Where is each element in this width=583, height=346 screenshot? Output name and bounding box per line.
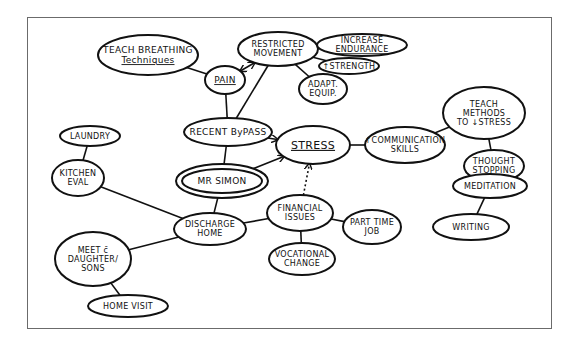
- node-label: SKILLS: [391, 145, 419, 154]
- node-strength: ↑STRENGTH: [319, 58, 379, 74]
- node-label: TEACH: [469, 100, 498, 109]
- node-label: ISSUES: [285, 213, 315, 222]
- node-label: Techniques: [120, 55, 174, 65]
- node-vocational-change: VOCATIONALCHANGE: [269, 243, 335, 275]
- node-communication-skills: ↑COMMUNICATIONSKILLS: [365, 127, 446, 163]
- edge-financial-issues-to-part-time-job: [331, 219, 344, 222]
- node-label: ADAPT.: [308, 80, 338, 89]
- node-label: VOCATIONAL: [275, 250, 330, 259]
- node-writing: WRITING: [433, 214, 509, 240]
- edge-kitchen-eval-to-laundry: [83, 146, 87, 160]
- node-teach-methods: TEACHMETHODSTO ↓STRESS: [443, 87, 525, 139]
- edge-restricted-movement-to-adapt-equip: [295, 64, 309, 76]
- node-label: ↑COMMUNICATION: [365, 136, 446, 145]
- edge-mr-simon-to-discharge-home: [214, 198, 218, 213]
- edge-pain-to-recent-bypass: [226, 94, 227, 118]
- node-kitchen-eval: KITCHENEVAL: [52, 160, 104, 196]
- edge-discharge-home-to-meet-daughter-sons: [129, 237, 179, 250]
- edge-financial-issues-to-stress: [303, 164, 309, 195]
- node-label: PAIN: [214, 75, 236, 85]
- edge-restricted-movement-to-strength: [313, 57, 327, 60]
- edge-communication-skills-to-teach-methods: [435, 127, 450, 133]
- node-label: PART TIME: [350, 218, 394, 227]
- node-meditation: MEDITATION: [453, 174, 527, 198]
- edge-financial-issues-to-vocational-change: [301, 231, 302, 243]
- edge-teach-methods-to-thought-stopping: [489, 139, 491, 150]
- node-label: MEET c̄: [78, 246, 109, 255]
- node-teach-breathing: TEACH BREATHINGTechniques: [98, 35, 198, 75]
- node-financial-issues: FINANCIALISSUES: [267, 195, 333, 231]
- node-label: DISCHARGE: [185, 220, 235, 229]
- edge-discharge-home-to-kitchen-eval: [101, 187, 183, 219]
- node-part-time-job: PART TIMEJOB: [343, 210, 401, 244]
- node-label: ENDURANCE: [335, 45, 388, 54]
- node-home-visit: HOME VISIT: [88, 295, 168, 317]
- node-meet-daughter-sons: MEET c̄DAUGHTER/SONS: [55, 232, 131, 286]
- edge-recent-bypass-to-mr-simon: [224, 146, 226, 164]
- node-laundry: LAUNDRY: [60, 126, 120, 146]
- node-label: THOUGHT: [472, 157, 515, 166]
- node-label: KITCHEN: [60, 169, 97, 178]
- node-increase-endurance: INCREASEENDURANCE: [317, 34, 407, 56]
- node-label: HOME: [197, 229, 222, 238]
- node-pain: PAIN: [205, 66, 245, 94]
- node-label: TEACH BREATHING: [102, 45, 193, 55]
- node-label: RECENT ByPASS: [190, 127, 267, 137]
- node-label: LAUNDRY: [70, 132, 110, 141]
- node-restricted-movement: RESTRICTEDMOVEMENT: [238, 32, 318, 66]
- edge-meet-daughter-sons-to-home-visit: [111, 283, 120, 295]
- node-label: EQUIP.: [309, 89, 337, 98]
- node-label: INCREASE: [341, 36, 384, 45]
- node-label: FINANCIAL: [278, 204, 323, 213]
- node-discharge-home: DISCHARGEHOME: [174, 213, 246, 245]
- node-recent-bypass: RECENT ByPASS: [184, 118, 272, 146]
- node-label: EVAL: [67, 178, 88, 187]
- node-label: RESTRICTED: [251, 40, 304, 49]
- edge-teach-breathing-to-pain: [187, 68, 207, 75]
- edge-pain-to-restricted-movement: [240, 63, 254, 71]
- node-label: JOB: [363, 227, 379, 236]
- node-label: DAUGHTER/: [68, 255, 118, 264]
- edge-mr-simon-to-stress: [253, 157, 283, 169]
- node-label: WRITING: [452, 223, 489, 232]
- node-label: SONS: [81, 264, 105, 273]
- node-label: MEDITATION: [464, 182, 516, 191]
- node-label: MOVEMENT: [254, 49, 303, 58]
- node-label: METHODS: [463, 109, 506, 118]
- node-stress: STRESS: [276, 126, 350, 164]
- node-label: STRESS: [291, 139, 335, 152]
- node-adapt-equip: ADAPT.EQUIP.: [299, 74, 347, 104]
- node-label: CHANGE: [284, 259, 320, 268]
- node-mr-simon: MR SIMON: [176, 164, 268, 198]
- concept-map: TEACH BREATHINGTechniquesPAINRESTRICTEDM…: [0, 0, 583, 346]
- edge-meditation-to-writing: [477, 198, 485, 214]
- node-label: HOME VISIT: [103, 302, 153, 311]
- node-label: MR SIMON: [197, 176, 246, 186]
- node-label: TO ↓STRESS: [456, 118, 511, 127]
- edge-discharge-home-to-financial-issues: [243, 219, 268, 223]
- node-label: ↑STRENGTH: [323, 62, 376, 71]
